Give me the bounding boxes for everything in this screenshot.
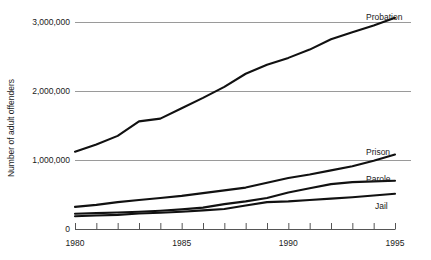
line-chart: Number of adult offenders 3,000,0002,000… [0, 0, 431, 260]
series-label-prison: Prison [366, 147, 390, 157]
x-tick-label: 1980 [66, 238, 85, 248]
chart-container: Number of adult offenders 3,000,0002,000… [0, 0, 431, 260]
x-tick-label: 1995 [386, 238, 405, 248]
series-label-probation: Probation [366, 12, 403, 22]
y-tick-label: 2,000,000 [32, 86, 70, 96]
series-label-parole: Parole [366, 174, 391, 184]
series-label-jail: Jail [375, 201, 388, 211]
y-tick-label: 0 [65, 224, 70, 234]
y-axis-title: Number of adult offenders [6, 79, 16, 177]
chart-background [0, 0, 431, 260]
x-tick-label: 1985 [172, 238, 191, 248]
y-tick-label: 3,000,000 [32, 17, 70, 27]
x-tick-label: 1990 [279, 238, 298, 248]
y-tick-label: 1,000,000 [32, 155, 70, 165]
